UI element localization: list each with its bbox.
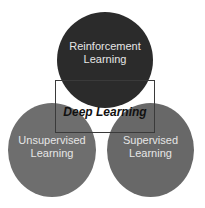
unsupervised-learning-label: Unsupervised Learning — [18, 134, 85, 160]
label-line-2: Learning — [123, 147, 178, 160]
label-line-2: Learning — [69, 53, 141, 66]
label-line-1: Unsupervised — [18, 134, 85, 147]
supervised-learning-label: Supervised Learning — [123, 134, 178, 160]
label-line-1: Reinforcement — [69, 40, 141, 53]
reinforcement-learning-label: Reinforcement Learning — [69, 40, 141, 66]
label-line-1: Supervised — [123, 134, 178, 147]
deep-learning-label: Deep Learning — [55, 105, 155, 119]
label-line-2: Learning — [18, 147, 85, 160]
